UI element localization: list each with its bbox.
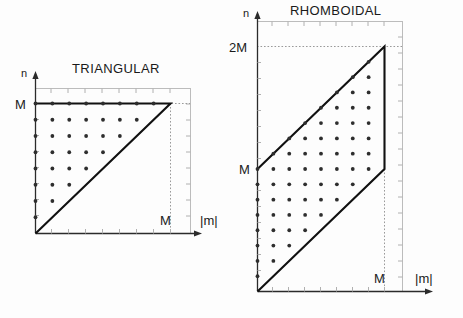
lattice-point xyxy=(335,106,339,110)
rhomboidal-frame xyxy=(258,22,403,292)
lattice-point xyxy=(303,121,307,125)
lattice-point xyxy=(84,167,88,171)
lattice-point xyxy=(67,183,71,187)
rhomboidal-lattice-dots xyxy=(256,60,371,278)
lattice-point xyxy=(287,198,291,202)
lattice-point xyxy=(303,152,307,156)
lattice-point xyxy=(101,134,105,138)
lattice-point xyxy=(152,102,156,106)
lattice-point xyxy=(335,182,339,186)
lattice-point xyxy=(256,259,260,263)
rhomboidal-title: RHOMBOIDAL xyxy=(290,3,381,18)
lattice-point xyxy=(50,199,54,203)
lattice-point xyxy=(256,198,260,202)
lattice-point xyxy=(34,118,38,122)
triangular-lattice-dots xyxy=(34,102,156,220)
lattice-point xyxy=(271,152,275,156)
lattice-point xyxy=(367,136,371,140)
lattice-point xyxy=(367,75,371,79)
rhomboidal-panel: n RHOMBOIDAL 2M M M |m| xyxy=(228,0,463,318)
lattice-point xyxy=(319,121,323,125)
lattice-point xyxy=(367,91,371,95)
rhomboidal-x-axis-label: |m| xyxy=(415,271,433,286)
lattice-point xyxy=(34,134,38,138)
lattice-point xyxy=(335,136,339,140)
lattice-point xyxy=(287,152,291,156)
rhomboidal-x-axis-ticks xyxy=(273,287,385,292)
lattice-point xyxy=(84,118,88,122)
lattice-point xyxy=(319,136,323,140)
lattice-point xyxy=(118,134,122,138)
lattice-point xyxy=(287,182,291,186)
rhomboidal-y-tick-label-top: 2M xyxy=(229,40,247,55)
lattice-point xyxy=(67,118,71,122)
lattice-point xyxy=(50,102,54,106)
triangular-y-axis-arrowhead xyxy=(32,71,38,79)
lattice-point xyxy=(50,167,54,171)
lattice-point xyxy=(256,182,260,186)
lattice-point xyxy=(303,182,307,186)
rhomboidal-frame-ticks xyxy=(272,22,403,278)
rhomboidal-x-axis-arrowhead xyxy=(425,288,433,294)
lattice-point xyxy=(34,167,38,171)
lattice-point xyxy=(319,167,323,171)
triangular-region-boundary xyxy=(36,104,171,234)
lattice-point xyxy=(367,60,371,64)
lattice-point xyxy=(319,213,323,217)
lattice-point xyxy=(303,213,307,217)
lattice-point xyxy=(319,106,323,110)
lattice-point xyxy=(351,136,355,140)
triangular-x-tick-label: M xyxy=(160,213,171,228)
lattice-point xyxy=(256,244,260,248)
lattice-point xyxy=(335,152,339,156)
lattice-point xyxy=(319,152,323,156)
lattice-point xyxy=(335,198,339,202)
rhomboidal-svg: n RHOMBOIDAL 2M M M |m| xyxy=(228,0,463,318)
triangular-x-axis-arrowhead xyxy=(194,230,202,236)
lattice-point xyxy=(101,150,105,154)
rhomboidal-y-tick-label-mid: M xyxy=(239,162,250,177)
lattice-point xyxy=(50,118,54,122)
lattice-point xyxy=(367,152,371,156)
triangular-x-axis-ticks xyxy=(52,229,171,234)
triangular-x-axis-label: |m| xyxy=(200,213,218,228)
rhomboidal-y-axis-label: n xyxy=(243,7,249,19)
lattice-point xyxy=(271,213,275,217)
lattice-point xyxy=(118,118,122,122)
lattice-point xyxy=(335,167,339,171)
lattice-point xyxy=(351,91,355,95)
lattice-point xyxy=(67,167,71,171)
triangular-y-tick-label: M xyxy=(15,97,26,112)
lattice-point xyxy=(135,102,139,106)
lattice-point xyxy=(287,244,291,248)
lattice-point xyxy=(34,215,38,219)
lattice-point xyxy=(351,75,355,79)
lattice-point xyxy=(287,167,291,171)
lattice-point xyxy=(50,150,54,154)
lattice-point xyxy=(351,121,355,125)
lattice-point xyxy=(287,136,291,140)
lattice-truncation-figure: n TRIANGULAR M M |m| xyxy=(0,0,463,318)
lattice-point xyxy=(256,274,260,278)
lattice-point xyxy=(50,183,54,187)
lattice-point xyxy=(303,228,307,232)
triangular-y-axis-label: n xyxy=(21,67,27,79)
lattice-point xyxy=(351,167,355,171)
lattice-point xyxy=(303,167,307,171)
triangular-title: TRIANGULAR xyxy=(72,61,160,76)
lattice-point xyxy=(84,134,88,138)
lattice-point xyxy=(135,118,139,122)
lattice-point xyxy=(256,213,260,217)
lattice-point xyxy=(101,118,105,122)
lattice-point xyxy=(351,106,355,110)
lattice-point xyxy=(34,102,38,106)
lattice-point xyxy=(34,199,38,203)
lattice-point xyxy=(67,150,71,154)
lattice-point xyxy=(287,228,291,232)
lattice-point xyxy=(34,150,38,154)
lattice-point xyxy=(271,167,275,171)
triangular-svg: n TRIANGULAR M M |m| xyxy=(0,55,232,265)
lattice-point xyxy=(271,198,275,202)
lattice-point xyxy=(118,102,122,106)
lattice-point xyxy=(351,152,355,156)
